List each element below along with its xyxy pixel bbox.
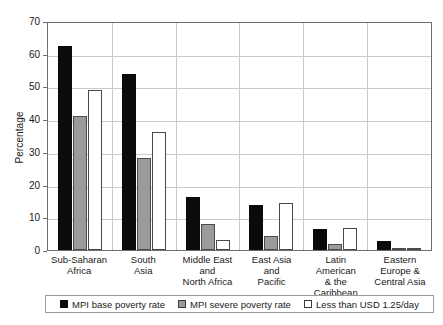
chart-legend: MPI base poverty rateMPI severe poverty … — [45, 295, 434, 313]
y-tick-60: 60 — [0, 50, 40, 60]
bar-group — [303, 23, 367, 250]
bar-group — [112, 23, 176, 250]
bar — [201, 224, 215, 250]
bar-group — [176, 23, 240, 250]
y-tick-mark-0 — [43, 251, 47, 252]
legend-label: MPI severe poverty rate — [190, 299, 291, 310]
bar — [407, 248, 421, 250]
x-tick-label: EasternEurope &Central Asia — [368, 254, 432, 298]
bar-chart: Percentage 706050403020100 Sub-SaharanAf… — [0, 0, 443, 325]
y-tick-40: 40 — [0, 115, 40, 125]
legend-label: Less than USD 1.25/day — [316, 299, 419, 310]
bar — [343, 228, 357, 250]
white-square-icon — [304, 300, 312, 308]
bar-group — [239, 23, 303, 250]
bar-group — [367, 23, 431, 250]
x-tick-label: SouthAsia — [111, 254, 175, 298]
legend-item[interactable]: MPI severe poverty rate — [178, 299, 291, 310]
y-tick-70: 70 — [0, 17, 40, 27]
x-tick-label: Latin American& theCaribbean — [304, 254, 368, 298]
gray-square-icon — [178, 300, 186, 308]
bar — [58, 46, 72, 250]
bar-group — [48, 23, 112, 250]
y-tick-20: 20 — [0, 181, 40, 191]
legend-label: MPI base poverty rate — [72, 299, 165, 310]
bar — [137, 158, 151, 250]
bar — [249, 205, 263, 250]
y-tick-10: 10 — [0, 213, 40, 223]
bar — [264, 236, 278, 250]
bar — [73, 116, 87, 250]
x-axis-tick-labels: Sub-SaharanAfricaSouthAsiaMiddle Eastand… — [47, 254, 432, 298]
x-tick-label: Middle EastandNorth Africa — [175, 254, 239, 298]
bar — [279, 203, 293, 250]
bar — [122, 74, 136, 250]
black-square-icon — [60, 300, 68, 308]
x-tick-label: Sub-SaharanAfrica — [47, 254, 111, 298]
bar-groups — [48, 23, 431, 250]
y-tick-0: 0 — [0, 246, 40, 256]
legend-item[interactable]: MPI base poverty rate — [60, 299, 165, 310]
bar — [88, 90, 102, 250]
bar — [392, 248, 406, 250]
y-tick-30: 30 — [0, 148, 40, 158]
bar — [328, 244, 342, 250]
bar — [377, 241, 391, 250]
x-tick-label: East AsiaandPacific — [240, 254, 304, 298]
y-axis-title: Percentage — [14, 83, 25, 193]
legend-item[interactable]: Less than USD 1.25/day — [304, 299, 419, 310]
bar — [313, 229, 327, 250]
bar — [152, 132, 166, 250]
plot-area — [47, 22, 432, 251]
bar — [186, 197, 200, 250]
y-tick-50: 50 — [0, 82, 40, 92]
bar — [216, 240, 230, 250]
